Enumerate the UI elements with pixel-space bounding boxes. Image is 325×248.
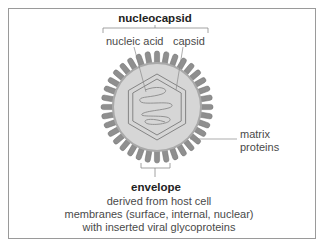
matrix-label-line2: proteins xyxy=(240,141,279,154)
envelope-desc-line3: with inserted viral glycoproteins xyxy=(83,221,236,234)
nucleocapsid-bracket xyxy=(103,25,208,33)
matrix-layer xyxy=(114,64,200,150)
nucleocapsid-label: nucleocapsid xyxy=(118,12,192,25)
capsid-label: capsid xyxy=(173,35,205,48)
envelope-label: envelope xyxy=(131,181,181,194)
nucleic-acid-label: nucleic acid xyxy=(106,35,163,48)
envelope-desc-line1: derived from host cell xyxy=(107,195,212,208)
envelope-desc-line2: membranes (surface, internal, nuclear) xyxy=(65,208,254,221)
matrix-label-line1: matrix xyxy=(240,128,270,141)
envelope-bracket xyxy=(141,163,170,177)
